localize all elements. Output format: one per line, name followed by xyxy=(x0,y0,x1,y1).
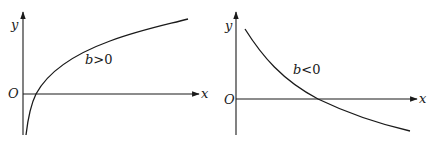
x-axis-label: x xyxy=(419,91,427,106)
curve-label: b<0 xyxy=(293,62,321,77)
x-axis-label: x xyxy=(201,86,209,101)
graph-b-positive: x y O b>0 xyxy=(8,12,209,135)
origin-label: O xyxy=(8,86,19,101)
log-curve-increasing xyxy=(26,19,188,135)
graph-b-negative: x y O b<0 xyxy=(224,12,427,135)
curve-label: b>0 xyxy=(85,52,113,67)
figure-canvas: x y O b>0 x y O b<0 xyxy=(0,0,435,148)
y-axis-label: y xyxy=(10,17,19,32)
origin-label: O xyxy=(224,92,235,107)
log-curve-decreasing xyxy=(245,29,410,131)
y-axis-label: y xyxy=(224,18,233,33)
